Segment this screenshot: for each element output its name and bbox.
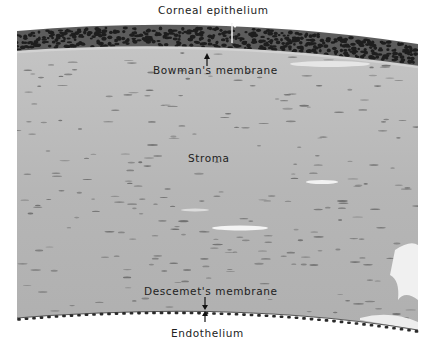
keratocyte-nucleus xyxy=(121,154,130,155)
epithelial-nucleus xyxy=(16,41,19,44)
keratocyte-nucleus xyxy=(264,241,272,243)
keratocyte-nucleus xyxy=(111,196,120,197)
keratocyte-nucleus xyxy=(139,198,146,199)
endothelial-cell xyxy=(355,322,359,325)
keratocyte-nucleus xyxy=(172,229,179,230)
keratocyte-nucleus xyxy=(69,305,75,306)
endothelial-cell xyxy=(280,315,284,318)
epithelial-nucleus xyxy=(69,44,75,48)
keratocyte-nucleus xyxy=(236,237,243,239)
epithelial-nucleus xyxy=(379,47,383,49)
epithelial-nucleus xyxy=(258,40,263,44)
keratocyte-nucleus xyxy=(185,78,190,80)
keratocyte-nucleus xyxy=(101,257,109,258)
epithelial-nucleus xyxy=(340,43,343,47)
keratocyte-nucleus xyxy=(24,92,32,93)
keratocyte-nucleus xyxy=(219,191,224,192)
label-stroma: Stroma xyxy=(188,152,230,164)
keratocyte-nucleus xyxy=(125,287,132,288)
keratocyte-nucleus xyxy=(144,95,150,96)
epithelial-nucleus xyxy=(195,41,200,44)
endothelial-cell xyxy=(332,320,336,323)
epithelial-nucleus xyxy=(65,29,71,32)
endothelial-cell xyxy=(197,312,201,315)
epithelial-nucleus xyxy=(38,37,41,41)
endothelial-cell xyxy=(370,324,374,327)
epithelial-nucleus xyxy=(47,37,50,39)
keratocyte-nucleus xyxy=(369,164,379,166)
epithelial-nucleus xyxy=(343,49,347,52)
epithelial-nucleus xyxy=(350,43,356,46)
endothelial-cell xyxy=(167,312,171,315)
keratocyte-nucleus xyxy=(226,271,235,272)
epithelial-nucleus xyxy=(320,39,325,43)
keratocyte-nucleus xyxy=(181,234,186,236)
keratocyte-nucleus xyxy=(192,133,196,134)
keratocyte-nucleus xyxy=(161,105,165,106)
epithelial-nucleus xyxy=(339,36,342,39)
keratocyte-nucleus xyxy=(363,264,373,266)
keratocyte-nucleus xyxy=(316,85,323,86)
keratocyte-nucleus xyxy=(139,213,144,214)
epithelial-nucleus xyxy=(219,29,222,32)
epithelial-nucleus xyxy=(280,46,286,50)
keratocyte-nucleus xyxy=(323,59,334,60)
keratocyte-nucleus xyxy=(38,77,44,79)
epithelial-nucleus xyxy=(105,27,108,30)
epithelial-nucleus xyxy=(139,33,144,37)
epithelial-nucleus xyxy=(356,42,361,44)
endothelial-cell xyxy=(175,312,179,315)
epithelial-nucleus xyxy=(335,50,338,52)
endothelial-cell xyxy=(257,314,261,317)
label-endothelium: Endothelium xyxy=(171,327,244,339)
keratocyte-nucleus xyxy=(14,130,21,131)
keratocyte-nucleus xyxy=(67,227,72,228)
epithelial-nucleus xyxy=(227,30,232,34)
keratocyte-nucleus xyxy=(284,94,291,95)
epithelial-nucleus xyxy=(85,27,89,31)
keratocyte-nucleus xyxy=(35,205,41,206)
keratocyte-nucleus xyxy=(241,127,250,129)
keratocyte-nucleus xyxy=(380,67,390,68)
epithelial-nucleus xyxy=(267,31,273,35)
keratocyte-nucleus xyxy=(18,263,28,264)
keratocyte-nucleus xyxy=(381,121,386,123)
epithelial-nucleus xyxy=(81,43,85,46)
keratocyte-nucleus xyxy=(335,249,340,251)
keratocyte-nucleus xyxy=(385,77,394,78)
endothelial-cell xyxy=(85,314,89,317)
keratocyte-nucleus xyxy=(114,256,120,257)
epithelial-nucleus xyxy=(382,54,387,58)
epithelial-nucleus xyxy=(300,36,304,40)
epithelial-nucleus xyxy=(225,37,229,39)
endothelial-cell xyxy=(32,317,36,320)
keratocyte-nucleus xyxy=(68,62,78,63)
keratocyte-nucleus xyxy=(309,173,318,174)
keratocyte-nucleus xyxy=(72,69,77,71)
epithelial-nucleus xyxy=(327,49,331,53)
epithelial-nucleus xyxy=(23,42,27,44)
keratocyte-nucleus xyxy=(26,121,32,122)
keratocyte-nucleus xyxy=(147,144,158,146)
epithelial-nucleus xyxy=(283,35,286,37)
epithelial-nucleus xyxy=(56,37,61,40)
epithelial-nucleus xyxy=(156,40,160,42)
epithelial-nucleus xyxy=(209,27,212,30)
keratocyte-nucleus xyxy=(46,150,51,152)
endothelial-cell xyxy=(265,315,269,318)
epithelial-nucleus xyxy=(407,45,412,48)
epithelial-nucleus xyxy=(189,44,193,47)
epithelial-nucleus xyxy=(210,36,214,40)
keratocyte-nucleus xyxy=(287,252,295,254)
keratocyte-nucleus xyxy=(314,209,323,210)
epithelial-nucleus xyxy=(208,38,211,42)
epithelial-nucleus xyxy=(280,38,283,42)
epithelial-nucleus xyxy=(287,35,290,37)
keratocyte-nucleus xyxy=(261,258,271,259)
keratocyte-nucleus xyxy=(393,243,400,245)
epithelial-nucleus xyxy=(168,37,172,40)
keratocyte-nucleus xyxy=(220,117,229,118)
keratocyte-nucleus xyxy=(20,200,29,201)
epithelial-nucleus xyxy=(293,37,298,40)
epithelial-nucleus xyxy=(311,49,315,52)
